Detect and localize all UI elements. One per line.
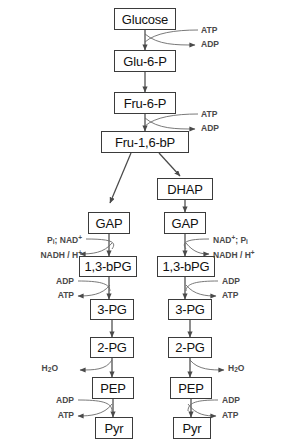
cofactor-label-atp-in-pfk: ATP — [201, 110, 217, 119]
cofactor-label-adp-in-pk-right: ADP — [222, 396, 240, 405]
metabolite-label: Glu-6-P — [123, 55, 166, 68]
cofactor-label-adp-in-pgk-right: ADP — [222, 277, 240, 286]
cofactor-label-nadh-h-right: NADH / H+ — [213, 250, 255, 259]
cofactor-label-nadh-h-left: NADH / H+ — [0, 250, 82, 259]
arc-atp-out-pk-right — [188, 404, 216, 416]
arc-nad-pi-in-right — [184, 239, 209, 249]
metabolite-label: 3-PG — [175, 303, 205, 316]
metabolite-node-bpg_left: 1,3-bPG — [79, 256, 137, 277]
cofactor-label-nad-pi-right: NAD+; Pi — [213, 235, 248, 245]
cofactor-label-adp-out-pfk: ADP — [201, 124, 219, 133]
metabolite-label: GAP — [96, 217, 123, 230]
metabolite-label: Fru-1,6-bP — [115, 136, 175, 149]
cofactor-label-adp-in-pgk-left: ADP — [0, 277, 74, 286]
metabolite-label: GAP — [172, 217, 199, 230]
metabolite-node-pg2_left: 2-PG — [90, 337, 134, 358]
metabolite-node-pg3_left: 3-PG — [90, 299, 134, 320]
arc-h2o-out-right — [190, 360, 224, 370]
metabolite-label: 2-PG — [97, 341, 127, 354]
arc-adp-out-pfk — [145, 118, 195, 129]
metabolite-node-gap_right: GAP — [164, 212, 206, 234]
arc-adp-out-hexokinase — [145, 34, 195, 45]
metabolite-node-pg3_right: 3-PG — [168, 299, 212, 320]
metabolite-label: 1,3-bPG — [84, 260, 131, 273]
cofactor-label-adp-out-hexokinase: ADP — [201, 40, 219, 49]
cofactor-label-atp-out-pgk-right: ATP — [222, 291, 238, 300]
metabolite-node-glu6p: Glu-6-P — [114, 50, 176, 72]
metabolite-label: DHAP — [167, 183, 202, 196]
metabolite-node-dhap: DHAP — [157, 178, 213, 200]
metabolite-label: 3-PG — [97, 303, 127, 316]
metabolite-node-pyr_right: Pyr — [173, 417, 211, 439]
cofactor-label-adp-in-pk-left: ADP — [0, 396, 74, 405]
cofactor-label-atp-out-pgk-left: ATP — [0, 291, 74, 300]
metabolite-label: Pyr — [105, 422, 124, 435]
metabolite-node-fru6p: Fru-6-P — [114, 92, 176, 114]
arc-atp-in-hexokinase — [145, 30, 198, 42]
metabolite-label: 2-PG — [175, 341, 205, 354]
metabolite-node-pep_right: PEP — [170, 377, 212, 399]
arc-atp-out-pgk-right — [186, 285, 216, 296]
arc-atp-in-pfk — [145, 114, 198, 126]
metabolite-node-gap_left: GAP — [88, 212, 130, 234]
metabolite-label: PEP — [178, 382, 203, 395]
metabolite-node-glucose: Glucose — [114, 8, 176, 30]
cofactor-label-atp-out-pk-right: ATP — [222, 411, 238, 420]
cofactor-label-pi-nad-left: Pi; NAD+ — [0, 235, 82, 245]
cofactor-label-atp-out-pk-left: ATP — [0, 411, 74, 420]
metabolite-label: Pyr — [183, 422, 202, 435]
cofactor-label-atp-in-hexokinase: ATP — [201, 26, 217, 35]
metabolite-node-pg2_right: 2-PG — [168, 337, 212, 358]
metabolite-node-pyr_left: Pyr — [95, 417, 133, 439]
metabolite-label: 1,3-bPG — [162, 260, 209, 273]
cofactor-label-h2o-out-right: H2O — [228, 364, 244, 374]
arc-nadh-out-right — [186, 243, 209, 254]
arrow-fru16bp-to-gap — [110, 153, 131, 203]
metabolite-node-bpg_right: 1,3-bPG — [157, 256, 215, 277]
metabolite-node-pep_left: PEP — [92, 377, 134, 399]
metabolite-node-fru16bp: Fru-1,6-bP — [101, 131, 189, 153]
metabolite-label: Fru-6-P — [124, 97, 167, 110]
arc-nadh-out-left — [80, 243, 112, 254]
arrow-fru16bp-to-dhap — [159, 153, 180, 176]
arc-atp-out-pk-left — [78, 404, 112, 416]
metabolite-label: Glucose — [122, 13, 168, 26]
cofactor-label-h2o-out-left: H2O — [0, 364, 58, 374]
glycolysis-diagram: GlucoseGlu-6-PFru-6-PFru-1,6-bPDHAPGAPGA… — [0, 0, 288, 445]
metabolite-label: PEP — [100, 382, 125, 395]
arc-h2o-out-left — [80, 360, 112, 370]
arc-atp-out-pgk-left — [78, 285, 110, 296]
